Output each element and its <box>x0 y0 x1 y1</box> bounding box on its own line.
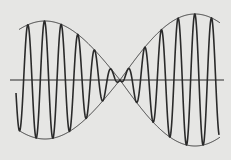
upper-envelope-curve <box>19 14 220 80</box>
diagram-canvas <box>0 0 231 160</box>
beat-wave-diagram <box>0 0 231 160</box>
